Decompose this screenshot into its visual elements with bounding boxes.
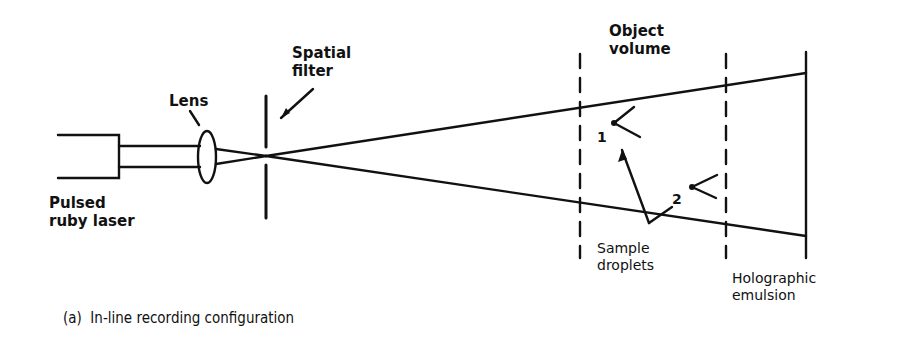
droplet-1-label: 1 — [597, 129, 607, 146]
object-volume-label: Object volume — [609, 22, 671, 58]
droplet-2-icon — [689, 184, 695, 190]
spatial-filter-label: Spatial filter — [292, 44, 351, 80]
laser-label: Pulsed ruby laser — [49, 194, 135, 230]
holographic-emulsion-label: Holographic emulsion — [732, 270, 816, 304]
droplet-1-icon — [611, 120, 617, 126]
lens-label: Lens — [169, 92, 208, 110]
droplet-2-label: 2 — [672, 191, 682, 208]
figure-caption: (a) In-line recording configuration — [63, 309, 294, 327]
laser-body — [58, 135, 119, 178]
sample-droplets-label: Sample droplets — [597, 240, 654, 274]
lens-icon — [198, 131, 216, 183]
